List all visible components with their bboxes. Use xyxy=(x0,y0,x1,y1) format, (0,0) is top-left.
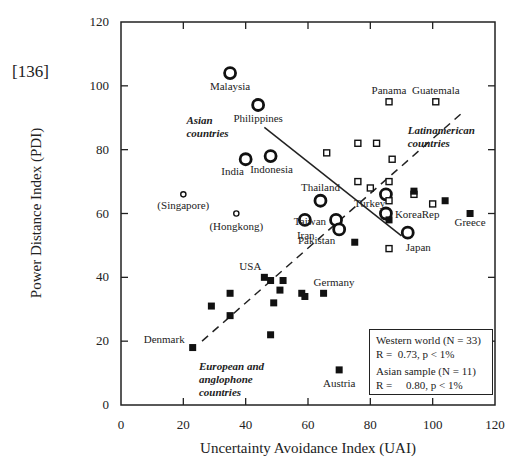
legend-asian-title: Asian sample (N = 11) xyxy=(376,365,486,379)
point-label-germany: Germany xyxy=(314,276,355,288)
point-label-greece: Greece xyxy=(454,216,485,228)
latin-country-marker xyxy=(430,201,436,207)
western-country-marker xyxy=(320,290,327,297)
latin-country-marker xyxy=(386,99,392,105)
x-tick-label: 100 xyxy=(423,417,443,432)
y-tick-label: 100 xyxy=(90,78,110,93)
excluded-country-marker xyxy=(181,192,186,197)
legend-western-title: Western world (N = 33) xyxy=(376,334,486,348)
point-label-philippines: Philippines xyxy=(233,112,283,124)
western-country-marker xyxy=(410,188,417,195)
asian-country-marker xyxy=(265,151,276,162)
point-label-hongkong: (Hongkong) xyxy=(209,220,263,233)
western-country-marker xyxy=(280,277,287,284)
excluded-country-marker xyxy=(234,211,239,216)
latin-country-marker xyxy=(386,246,392,252)
legend-western-stats: R = 0.73, p < 1% xyxy=(376,348,486,362)
x-tick-label: 80 xyxy=(364,417,377,432)
point-label-taiwan: Taiwan xyxy=(294,215,327,227)
y-tick-label: 120 xyxy=(90,14,110,29)
y-tick-label: 40 xyxy=(96,269,109,284)
point-label-singapore: (Singapore) xyxy=(157,199,209,212)
asian-country-marker xyxy=(225,68,236,79)
point-label-india: India xyxy=(221,165,244,177)
group-label: Latinamericancountries xyxy=(407,124,475,149)
asian-country-marker xyxy=(315,195,326,206)
y-tick-label: 20 xyxy=(96,333,109,348)
point-label-malaysia: Malaysia xyxy=(210,80,250,92)
y-tick-label: 0 xyxy=(103,397,110,412)
western-country-marker xyxy=(270,299,277,306)
latin-country-marker xyxy=(367,185,373,191)
point-label-indonesia: Indonesia xyxy=(250,163,293,175)
legend-asian-stats: R = 0.80, p < 1% xyxy=(376,379,486,393)
latin-country-marker xyxy=(374,140,380,146)
western-country-marker xyxy=(189,344,196,351)
latin-country-marker xyxy=(389,156,395,162)
western-country-marker xyxy=(301,293,308,300)
group-label: European andanglophonecountries xyxy=(198,360,265,398)
western-country-marker xyxy=(208,303,215,310)
western-country-marker xyxy=(336,366,343,373)
western-country-marker xyxy=(267,277,274,284)
legend-box: Western world (N = 33) R = 0.73, p < 1% … xyxy=(369,329,493,395)
point-label-guatemala: Guatemala xyxy=(412,84,460,96)
x-tick-label: 20 xyxy=(177,417,190,432)
asian-country-marker xyxy=(253,99,264,110)
western-country-marker xyxy=(227,312,234,319)
point-label-japan: Japan xyxy=(406,241,432,253)
latin-country-marker xyxy=(386,179,392,185)
western-country-marker xyxy=(351,239,358,246)
asian-country-marker xyxy=(334,224,345,235)
point-label-austria: Austria xyxy=(323,377,356,389)
y-tick-label: 60 xyxy=(96,206,109,221)
latin-country-marker xyxy=(433,99,439,105)
scatter-plot: 020406080100120020406080100120MalaysiaPh… xyxy=(0,0,513,466)
point-label-turkey: Turkey xyxy=(354,197,386,209)
x-axis-label: Uncertainty Avoidance Index (UAI) xyxy=(200,440,416,457)
western-country-marker xyxy=(386,216,393,223)
western-country-marker xyxy=(227,290,234,297)
western-country-marker xyxy=(267,331,274,338)
point-label-korearep: KoreaRep xyxy=(395,208,440,220)
latin-country-marker xyxy=(355,140,361,146)
x-tick-label: 60 xyxy=(302,417,315,432)
x-tick-label: 0 xyxy=(118,417,125,432)
point-label-pakistan: Pakistan xyxy=(298,234,336,246)
western-country-marker xyxy=(261,274,268,281)
latin-country-marker xyxy=(355,179,361,185)
point-label-denmark: Denmark xyxy=(144,333,185,345)
western-country-marker xyxy=(276,287,283,294)
point-label-panama: Panama xyxy=(372,84,407,96)
point-label-thailand: Thailand xyxy=(301,181,341,193)
western-country-marker xyxy=(442,197,449,204)
group-label: Asiancountries xyxy=(185,114,228,139)
latin-country-marker xyxy=(386,198,392,204)
x-tick-label: 120 xyxy=(485,417,505,432)
y-tick-label: 80 xyxy=(96,142,109,157)
asian-country-marker xyxy=(402,227,413,238)
point-label-usa: USA xyxy=(239,260,261,272)
latin-country-marker xyxy=(324,150,330,156)
x-tick-label: 40 xyxy=(239,417,252,432)
y-axis-label: Power Distance Index (PDI) xyxy=(28,128,45,298)
